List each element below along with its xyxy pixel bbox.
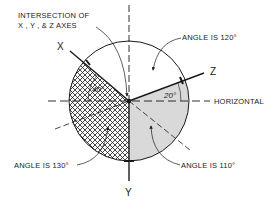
angle-120-callout: ANGLE IS 120° [182, 33, 237, 42]
z-axis-label: Z [210, 66, 216, 77]
horizontal-label: HORIZONTAL [214, 97, 264, 106]
angle-110-callout: ANGLE IS 110° [181, 161, 235, 170]
origin-point [127, 99, 131, 103]
y-axis-label: Y [125, 187, 132, 198]
angle-130-callout: ANGLE IS 130° [14, 161, 69, 170]
intersection-callout-line1: INTERSECTION OF [18, 11, 90, 20]
angle-20-label: 20° [163, 91, 177, 100]
x-axis-label: X [57, 41, 64, 52]
crosshatch-sector-xy [69, 62, 129, 161]
isometric-axes-diagram: X Y Z 40° 20° HORIZONTAL INTERSECTION OF… [0, 0, 279, 209]
intersection-callout-line2: X , Y , & Z AXES [18, 21, 77, 30]
stipple-sector-yz [129, 81, 189, 162]
angle-40-label: 40° [92, 85, 105, 94]
